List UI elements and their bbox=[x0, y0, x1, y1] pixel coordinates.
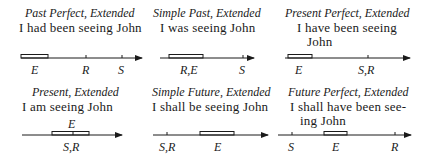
panel-sentence-present-perfect-line1: I have been seeing bbox=[297, 21, 397, 35]
panel-title-past-perfect: Past Perfect, Extended bbox=[25, 6, 135, 21]
timeline-present bbox=[22, 132, 122, 136]
label-r: R bbox=[391, 140, 398, 155]
panel-sentence-simple-past: I was seeing John bbox=[160, 21, 255, 35]
panel-title-present-perfect: Present Perfect, Extended bbox=[285, 6, 410, 21]
panel-sentence-future-perfect-line2: ing John bbox=[300, 114, 346, 128]
label-s: S bbox=[288, 140, 294, 155]
label-e: E bbox=[214, 140, 221, 155]
label-e: E bbox=[332, 140, 339, 155]
panel-sentence-present: I am seeing John bbox=[22, 100, 113, 114]
panel-sentence-simple-future: I shall be seeing John bbox=[152, 100, 268, 114]
label-e: E bbox=[31, 63, 38, 78]
timeline-simple-past bbox=[160, 55, 254, 59]
timeline-simple-future bbox=[153, 132, 268, 136]
panel-sentence-past-perfect: I had been seeing John bbox=[19, 21, 142, 35]
label-s: S bbox=[239, 63, 245, 78]
timeline-future-perfect bbox=[278, 132, 411, 136]
label-r-e: R,E bbox=[180, 63, 198, 78]
label-e: E bbox=[295, 63, 302, 78]
timeline-present-perfect bbox=[285, 55, 410, 59]
label-e: E bbox=[68, 117, 75, 132]
panel-sentence-present-perfect-line2: John bbox=[307, 35, 332, 49]
timeline-past-perfect bbox=[21, 55, 142, 59]
label-s-r: S,R bbox=[63, 140, 79, 155]
label-r: R bbox=[82, 63, 89, 78]
panel-title-simple-past: Simple Past, Extended bbox=[153, 6, 261, 21]
panel-sentence-future-perfect-line1: I shall have been see- bbox=[290, 100, 406, 114]
panel-title-simple-future: Simple Future, Extended bbox=[152, 85, 271, 100]
panel-title-future-perfect: Future Perfect, Extended bbox=[288, 85, 409, 100]
label-s-r: S,R bbox=[358, 63, 374, 78]
panel-title-present: Present, Extended bbox=[32, 85, 119, 100]
label-s: S bbox=[118, 63, 124, 78]
label-s-r: S,R bbox=[159, 140, 175, 155]
